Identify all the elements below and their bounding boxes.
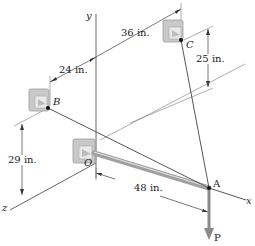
label-point-a: A: [213, 179, 220, 189]
dim-24-arrow2: [90, 57, 96, 62]
label-x-axis: x: [246, 196, 252, 206]
dim-48-arrow-right: [202, 209, 208, 212]
dim-48-line-b: [160, 196, 208, 212]
bracket-b: [29, 89, 49, 111]
dim-29-label: 29 in.: [8, 155, 37, 165]
dim-29-arrow-top: [20, 124, 24, 130]
point-c-marker: [179, 38, 183, 42]
dim-36-label: 36 in.: [121, 28, 150, 38]
dim-48-label: 48 in.: [134, 183, 163, 193]
label-load-p: P: [214, 233, 221, 243]
dim-24-arrow: [50, 77, 57, 82]
label-point-b: B: [53, 97, 60, 107]
point-a-marker: [207, 186, 211, 190]
label-point-o: O: [84, 158, 92, 168]
load-p-arrowhead: [204, 228, 214, 240]
label-y-axis: y: [86, 11, 92, 21]
point-b-marker: [46, 106, 50, 110]
label-point-c: C: [186, 40, 194, 50]
dim-25-label: 25 in.: [196, 54, 225, 64]
dim-48-arrow-left: [96, 173, 102, 176]
dim-36-arrow: [175, 9, 181, 14]
dim-25-arrow-top: [206, 29, 210, 35]
x-axis: [209, 188, 246, 200]
ref-line: [100, 64, 245, 140]
dim-24-label: 24 in.: [59, 65, 88, 75]
label-z-axis: z: [2, 203, 7, 213]
dim-29-arrow-bot: [20, 189, 24, 195]
z-axis: [10, 163, 96, 210]
